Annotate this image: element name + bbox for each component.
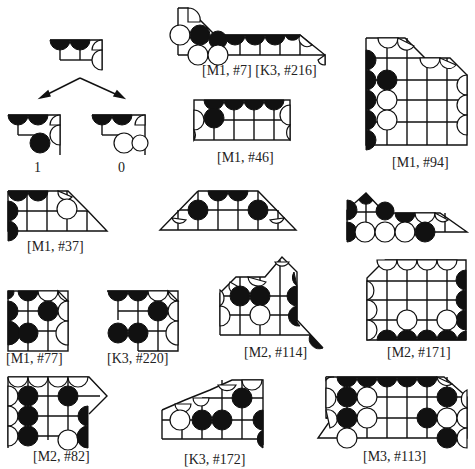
- branch-arrows: [40, 78, 124, 98]
- label-branch-1: 1: [34, 160, 41, 176]
- diagram-k3-172: [162, 380, 263, 448]
- label-m1-94: [M1, #94]: [392, 155, 449, 171]
- diagram-m2-114: [220, 257, 323, 349]
- label-branch-0: 0: [118, 160, 125, 176]
- diagram-m2-82: [8, 377, 107, 450]
- diagram-k3-220: [107, 291, 178, 351]
- diagram-right-middle: [347, 193, 467, 242]
- label-m1-37: [M1, #37]: [27, 239, 84, 255]
- label-m1-77: [M1, #77]: [6, 351, 63, 367]
- diagram-branch-0: [92, 115, 148, 155]
- diagram-m1-46: [194, 100, 290, 140]
- label-m2-114: [M2, #114]: [244, 345, 307, 361]
- label-m2-171: [M2, #171]: [387, 345, 451, 361]
- diagram-root: [50, 40, 102, 70]
- label-m1-7-k3-216: [M1, #7] [K3, #216]: [202, 63, 317, 79]
- diagram-m1-77: [8, 291, 68, 351]
- diagram-m3-113: [318, 377, 467, 448]
- label-k3-172: [K3, #172]: [184, 452, 245, 468]
- label-m2-82: [M2, #82]: [33, 449, 90, 465]
- diagram-trapezoid: [160, 191, 296, 230]
- diagram-m1-37: [8, 191, 107, 241]
- label-m1-46: [M1, #46]: [217, 150, 274, 166]
- label-k3-220: [K3, #220]: [107, 351, 168, 367]
- diagram-branch-1: [8, 115, 60, 155]
- diagram-m1-94: [366, 38, 467, 150]
- diagram-m1-7: [170, 8, 325, 65]
- label-m3-113: [M3, #113]: [363, 449, 426, 465]
- diagram-m2-171: [367, 260, 466, 340]
